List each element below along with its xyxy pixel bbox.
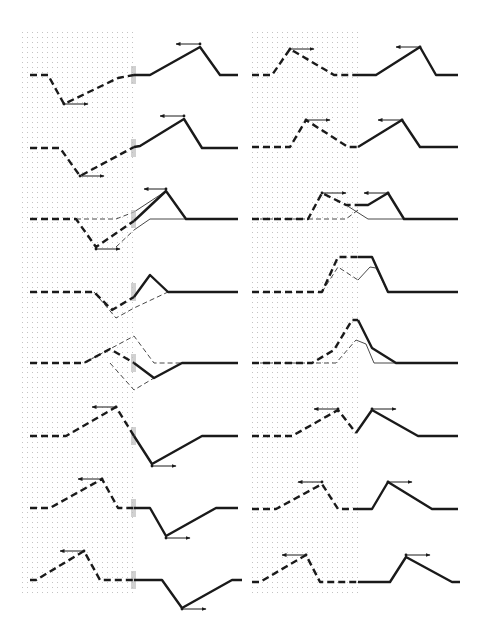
wave-pulse-medium2-right-3 [358,193,458,219]
wave-pulse-medium2-left-4 [134,275,238,297]
wave-pulse-medium2-right-7 [358,482,458,509]
wave-pulse-medium2-left-7 [134,508,238,536]
dotted-medium-region-left [22,30,134,594]
wave-pulse-medium2-right-6 [356,410,458,436]
component-transmitted-b-left-3 [134,219,238,230]
wave-pulse-medium2-left-2 [134,119,238,148]
dotted-medium-region-right [250,30,358,596]
wave-pulse-medium2-left-1 [134,47,238,75]
wave-pulse-medium2-right-1 [358,47,458,75]
wave-pulse-medium2-right-4 [358,257,458,292]
figure-canvas [0,0,484,639]
wave-pulse-medium2-left-5 [134,363,238,378]
wave-pulse-medium2-left-3 [134,191,238,221]
wave-pulse-medium2-left-6 [134,436,238,464]
wave-reflection-figure [0,0,484,639]
dotted-grid-layer [22,30,358,596]
wave-pulse-medium2-right-2 [358,120,458,147]
wave-pulse-medium2-right-5 [358,320,458,363]
component-transmitted-right-5 [356,340,458,363]
wave-pulse-medium2-right-8 [358,557,460,582]
wave-pulse-medium2-left-8 [134,580,242,608]
